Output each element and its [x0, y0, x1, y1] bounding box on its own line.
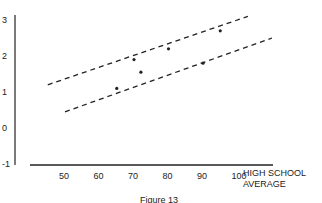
figure-caption: Figure 13	[140, 195, 178, 203]
dashed-band-line	[48, 16, 248, 84]
x-axis-label-line1: HIGH SCHOOL	[243, 168, 306, 178]
x-tick-label: 80	[163, 171, 173, 181]
x-tick-label: 60	[94, 171, 104, 181]
x-axis-label-line2: AVERAGE	[243, 179, 286, 189]
data-point	[115, 87, 118, 90]
y-tick-label: 0	[2, 123, 7, 133]
data-point	[139, 71, 142, 74]
x-tick-label: 90	[197, 171, 207, 181]
y-tick-label: 1	[2, 87, 7, 97]
data-point	[167, 47, 170, 50]
y-tick-labels: 3210-1	[2, 15, 10, 169]
x-tick-labels: 5060708090100	[59, 171, 247, 181]
data-points	[115, 29, 222, 90]
scatter-chart: 3210-1 5060708090100 HIGH SCHOOL AVERAGE…	[0, 0, 322, 203]
data-point	[201, 62, 204, 65]
y-tick-label: 2	[2, 51, 7, 61]
data-point	[219, 29, 222, 32]
x-tick-label: 70	[128, 171, 138, 181]
y-tick-label: -1	[2, 159, 10, 169]
data-point	[132, 58, 135, 61]
x-tick-label: 50	[59, 171, 69, 181]
confidence-band-lines	[48, 16, 272, 111]
y-tick-label: 3	[2, 15, 7, 25]
